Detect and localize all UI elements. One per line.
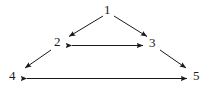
node-label-5: 5 (193, 69, 200, 82)
edge-3-to-5 (160, 50, 186, 68)
edge-1-to-2 (69, 16, 103, 37)
node-label-4: 4 (9, 69, 16, 82)
edge-2-to-4 (25, 50, 51, 68)
node-label-2: 2 (54, 35, 61, 48)
edge-1-to-3 (114, 16, 147, 37)
graph-diagram: 1 2 3 4 5 (0, 0, 208, 91)
node-label-3: 3 (149, 36, 156, 49)
node-label-1: 1 (104, 3, 111, 16)
